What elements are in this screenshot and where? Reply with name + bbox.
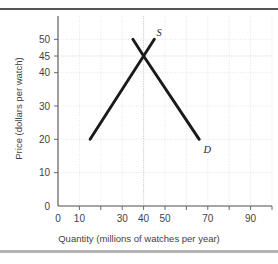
x-tick-label: 90 — [245, 213, 257, 224]
y-tick-label: 30 — [39, 101, 51, 112]
y-axis-title: Price (dollars per watch) — [13, 39, 24, 179]
bottom-divider-rule — [0, 250, 278, 253]
y-tick-label: 45 — [39, 51, 51, 62]
y-tick-label: 20 — [39, 134, 51, 145]
curve-demand — [133, 39, 199, 139]
y-tick-label: 40 — [39, 67, 51, 78]
curve-label-supply: S — [156, 27, 162, 38]
curve-label-demand: D — [203, 144, 212, 155]
y-tick-label: 50 — [39, 34, 51, 45]
x-tick-label: 40 — [138, 213, 150, 224]
curve-supply — [90, 39, 154, 139]
x-tick-label: 30 — [117, 213, 129, 224]
x-axis-title: Quantity (millions of watches per year) — [0, 233, 278, 244]
x-tick-label: 50 — [159, 213, 171, 224]
figure-container: 01020304045500103040507090SD Price (doll… — [0, 0, 278, 264]
y-tick-label: 10 — [39, 167, 51, 178]
chart-plot-area: 01020304045500103040507090SD — [0, 10, 278, 232]
x-tick-label: 10 — [74, 213, 86, 224]
x-tick-label: 70 — [202, 213, 214, 224]
y-tick-label: 0 — [44, 201, 50, 212]
x-tick-label: 0 — [55, 213, 61, 224]
